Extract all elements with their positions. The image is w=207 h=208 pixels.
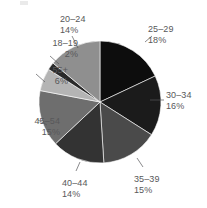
slice-label-18-19: 18–192% xyxy=(22,38,78,59)
leader-line-35-39 xyxy=(137,158,143,167)
slice-label-percent: 15% xyxy=(134,185,160,196)
slice-label-55+: 55+6% xyxy=(12,65,68,86)
slice-label-name: 45–54 xyxy=(4,116,60,127)
slice-label-name: 40–44 xyxy=(62,178,88,189)
slice-label-percent: 18% xyxy=(148,35,174,46)
slice-label-35-39: 35–3915% xyxy=(134,174,160,195)
slice-label-percent: 6% xyxy=(12,76,68,87)
slice-label-name: 55+ xyxy=(12,65,68,76)
slice-label-30-34: 30–3416% xyxy=(166,90,192,111)
slice-label-40-44: 40–4414% xyxy=(62,178,88,199)
slice-label-45-54: 45–5415% xyxy=(4,116,60,137)
slice-label-percent: 16% xyxy=(166,101,192,112)
slice-label-percent: 15% xyxy=(4,127,60,138)
slice-label-percent: 14% xyxy=(62,189,88,200)
slice-label-name: 20–24 xyxy=(60,14,86,25)
slice-label-name: 25–29 xyxy=(148,24,174,35)
pie-slice-group xyxy=(39,41,161,163)
slice-label-name: 30–34 xyxy=(166,90,192,101)
slice-label-percent: 14% xyxy=(60,25,86,36)
pie-chart-figure: 25–2918%30–3416%35–3915%40–4414%45–5415%… xyxy=(0,0,207,208)
slice-label-20-24: 20–2414% xyxy=(60,14,86,35)
slice-label-name: 18–19 xyxy=(22,38,78,49)
slice-label-percent: 2% xyxy=(22,49,78,60)
leader-line-40-44 xyxy=(76,162,80,171)
slice-label-25-29: 25–2918% xyxy=(148,24,174,45)
slice-label-name: 35–39 xyxy=(134,174,160,185)
